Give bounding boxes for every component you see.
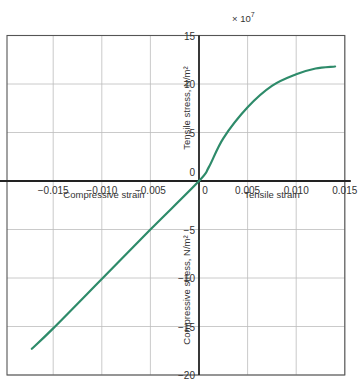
y-tick-label: 15 xyxy=(184,31,196,42)
y-negative-label: Compressive stress, N/m² xyxy=(181,235,192,344)
y-tick-label: −5 xyxy=(184,225,196,236)
y-positive-label: Tensile stress, N/m² xyxy=(181,66,192,149)
y-tick-label: −20 xyxy=(178,370,195,381)
x-negative-label: Compressive strain xyxy=(63,189,144,200)
multiplier-label: × 107 xyxy=(232,11,255,24)
y-tick-label: 0 xyxy=(189,167,195,178)
x-tick-label: 0 xyxy=(202,185,208,196)
x-tick-label: 0.015 xyxy=(332,185,357,196)
tick-labels: −0.015−0.010−0.00500.0050.0100.015151050… xyxy=(38,31,358,382)
stress-strain-chart: −0.015−0.010−0.00500.0050.0100.015151050… xyxy=(0,0,360,382)
x-positive-label: Tensile strain xyxy=(244,189,299,200)
